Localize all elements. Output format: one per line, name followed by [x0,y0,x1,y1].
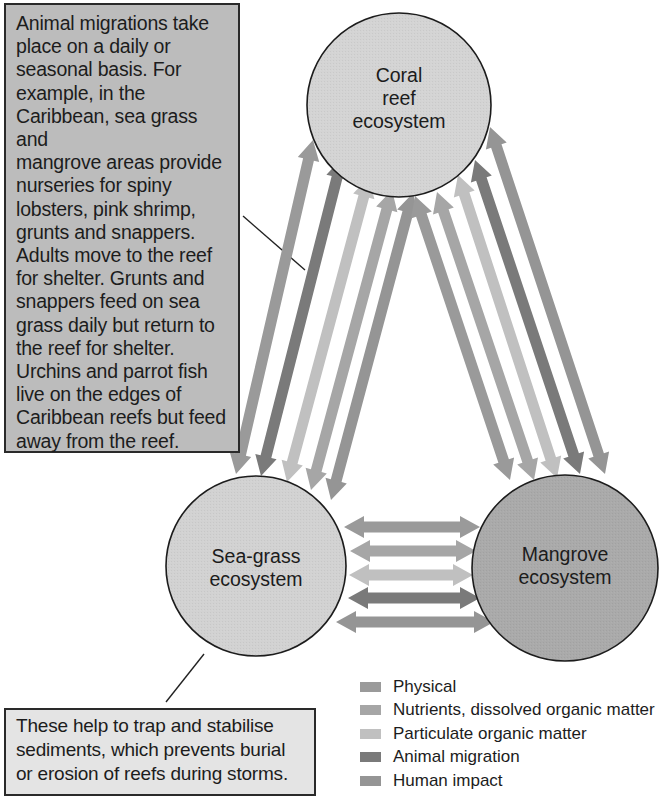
callout-line: the reef for shelter. [16,337,232,360]
callout-line: Urchins and parrot fish [16,360,232,383]
mangrove-label: Mangrove ecosystem [495,543,635,589]
arrow-seagrass-mangrove [336,611,494,633]
legend-item-physical: Physical [360,675,655,699]
animal-migration-callout: Animal migrations take place on a daily … [4,3,240,453]
sediment-callout: These help to trap and stabilise sedimen… [4,708,316,796]
legend-item-animal-migration: Animal migration [360,746,655,770]
callout-line: lobsters, pink shrimp, [16,198,232,221]
arrow-seagrass-coral [326,193,419,500]
legend-label: Physical [393,677,456,697]
legend-label: Particulate organic matter [393,724,587,744]
coral-reef-label: Coral reef ecosystem [329,64,469,133]
sea-grass-label-line: Sea-grass [186,545,326,568]
callout-line: grunts and snappers. [16,221,232,244]
callout-line: These help to trap and stabilise [16,714,308,738]
legend-item-nutrients: Nutrients, dissolved organic matter [360,699,655,723]
legend-item-human-impact: Human impact [360,769,655,793]
callout-line: grass daily but return to [16,314,232,337]
legend-swatch [360,752,381,762]
callout-line: snappers feed on sea [16,290,232,313]
legend-item-particulate: Particulate organic matter [360,722,655,746]
legend-label: Human impact [393,771,503,791]
sea-grass-label: Sea-grass ecosystem [186,545,326,591]
callout-line: Animal migrations take [16,12,232,35]
callout-line: Caribbean reefs but feed [16,406,232,429]
callout-line: Adults move to the reef [16,244,232,267]
mangrove-label-line: ecosystem [495,566,635,589]
arrow-coral-mangrove [454,175,561,478]
arrow-seagrass-mangrove [349,564,473,586]
callout-line: Caribbean, sea grass and [16,105,232,151]
coral-label-line: reef [329,87,469,110]
callout-line: nurseries for spiny [16,174,232,197]
mangrove-label-line: Mangrove [495,543,635,566]
callout-line: away from the reef. [16,430,232,453]
legend-label: Nutrients, dissolved organic matter [393,700,655,720]
callout-line: for shelter. Grunts and [16,267,232,290]
callout-bottom-leader-line [166,654,204,702]
arrow-seagrass-mangrove [348,587,480,609]
callout-line: sediments, which prevents burial [16,738,308,762]
legend-swatch [360,705,381,715]
legend-swatch [360,729,381,739]
callout-line: mangrove areas provide [16,151,232,174]
sea-grass-label-line: ecosystem [186,568,326,591]
callout-line: live on the edges of [16,383,232,406]
coral-label-line: Coral [329,64,469,87]
arrow-seagrass-mangrove [350,540,476,562]
legend: Physical Nutrients, dissolved organic ma… [360,675,655,793]
callout-line: seasonal basis. For [16,58,232,81]
legend-swatch [360,776,381,786]
legend-label: Animal migration [393,747,520,767]
callout-line: or erosion of reefs during storms. [16,762,308,786]
callout-line: example, in the [16,82,232,105]
arrow-seagrass-mangrove [344,516,480,538]
callout-line: place on a daily or [16,35,232,58]
coral-label-line: ecosystem [329,110,469,133]
legend-swatch [360,682,381,692]
